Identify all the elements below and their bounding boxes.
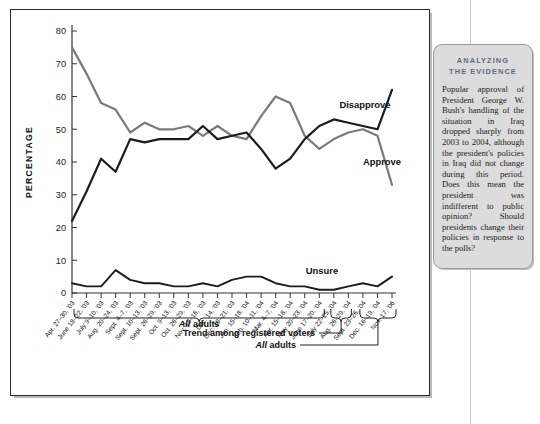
analyzing-the-evidence-callout: ANALYZING THE EVIDENCE Popular approval …: [433, 44, 533, 269]
y-axis-title: PERCENTAGE: [24, 126, 34, 198]
y-tick-label: 0: [61, 288, 66, 298]
y-tick-label: 20: [56, 223, 66, 233]
y-tick-label: 30: [56, 190, 66, 200]
figure-page: 01020304050607080PERCENTAGEApr. 27–30, '…: [0, 0, 540, 424]
y-tick-label: 80: [56, 26, 66, 36]
line-chart: 01020304050607080PERCENTAGEApr. 27–30, '…: [10, 9, 428, 394]
y-tick-label: 10: [56, 256, 66, 266]
callout-title: ANALYZING THE EVIDENCE: [442, 55, 524, 77]
chart-area: 01020304050607080PERCENTAGEApr. 27–30, '…: [10, 9, 428, 394]
annotation-registered-voters: Trend among registered voters: [183, 328, 315, 338]
series-label-unsure: Unsure: [306, 265, 338, 276]
y-tick-label: 60: [56, 92, 66, 102]
y-tick-label: 70: [56, 59, 66, 69]
callout-title-line-1: ANALYZING: [442, 55, 524, 66]
y-tick-label: 40: [56, 157, 66, 167]
y-tick-label: 50: [56, 125, 66, 135]
callout-title-line-2: THE EVIDENCE: [442, 66, 524, 77]
callout-body-text: Popular approval of President George W. …: [442, 84, 524, 254]
series-label-approve: Approve: [363, 156, 401, 167]
annotation-all-adults-2: All adults: [254, 340, 296, 350]
series-label-disapprove: Disapprove: [339, 99, 390, 110]
series-line-unsure: [72, 270, 392, 290]
